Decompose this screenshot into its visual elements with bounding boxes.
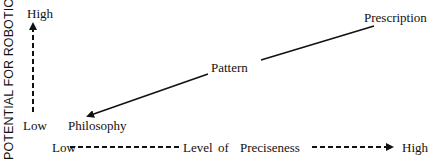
x-axis-low-label: Low (52, 141, 76, 154)
x-axis-title-preciseness: Preciseness (240, 141, 300, 154)
philosophy-pattern-arrow (88, 74, 208, 116)
x-axis-title-level: Level (183, 141, 213, 154)
x-axis-high-label: High (402, 141, 428, 154)
pattern-prescription-line (261, 26, 374, 60)
y-axis-high-label: High (27, 7, 53, 20)
node-pattern: Pattern (211, 61, 248, 74)
y-axis-low-label: Low (23, 119, 47, 132)
node-prescription: Prescription (364, 11, 427, 24)
x-axis-title-of: of (218, 141, 229, 154)
node-philosophy: Philosophy (68, 119, 127, 132)
